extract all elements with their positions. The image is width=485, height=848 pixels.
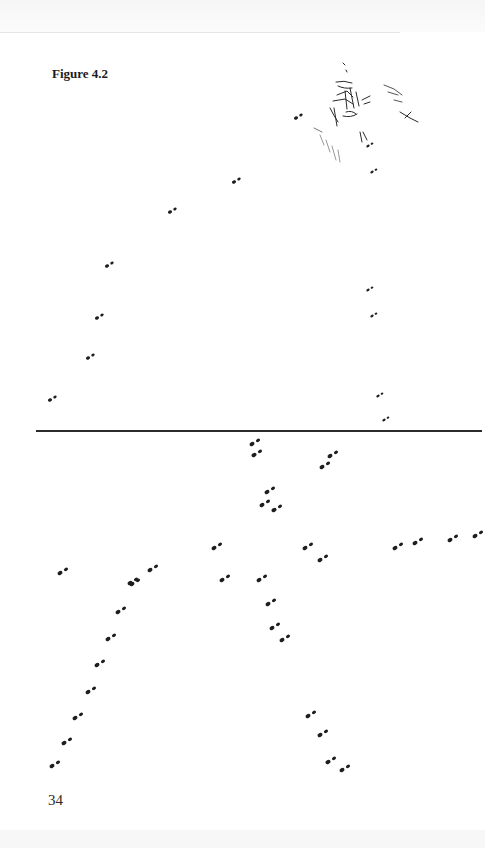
track-print <box>61 737 73 746</box>
track-print <box>147 564 159 573</box>
track-disturbance-cluster <box>314 63 418 162</box>
track-print <box>472 530 484 539</box>
track-print <box>279 634 291 643</box>
track-print <box>259 499 271 508</box>
track-print <box>327 450 339 459</box>
track-print <box>231 177 241 185</box>
track-print <box>219 574 231 583</box>
track-print <box>317 554 329 563</box>
track-print <box>265 598 277 607</box>
track-print <box>256 574 268 583</box>
track-print <box>412 537 424 546</box>
track-print <box>376 392 384 398</box>
track-print <box>115 606 127 615</box>
track-print <box>366 286 374 292</box>
track-print <box>105 633 117 642</box>
track-print <box>85 353 95 361</box>
track-print <box>85 686 97 695</box>
track-print <box>293 113 303 121</box>
track-print <box>94 313 104 321</box>
track-print <box>57 567 69 576</box>
track-print <box>317 729 329 738</box>
panel-divider <box>36 430 482 432</box>
scan-bottom-margin <box>0 830 485 848</box>
track-print <box>249 438 261 447</box>
track-print <box>104 261 114 269</box>
track-print <box>325 756 337 765</box>
track-print <box>271 504 283 513</box>
animal-tracks-figure <box>0 0 485 848</box>
track-print <box>447 534 459 543</box>
track-print <box>211 542 223 551</box>
track-print <box>370 168 378 174</box>
track-print <box>167 207 177 215</box>
track-print <box>72 712 84 721</box>
track-print <box>305 710 317 719</box>
track-print <box>94 659 106 668</box>
track-print <box>370 312 378 318</box>
track-print <box>269 622 281 631</box>
track-print <box>251 449 263 458</box>
track-print <box>264 486 276 495</box>
track-print <box>319 461 331 470</box>
track-print <box>47 395 57 403</box>
track-print <box>382 416 390 422</box>
page-number: 34 <box>48 792 63 809</box>
track-print <box>49 760 61 769</box>
track-print <box>366 142 374 148</box>
track-print <box>392 542 404 551</box>
track-print <box>339 764 351 773</box>
track-print <box>302 542 314 551</box>
